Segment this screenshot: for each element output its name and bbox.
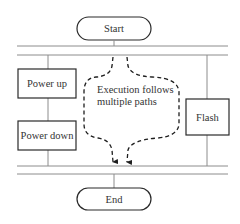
annotation-line-2: multiple paths <box>97 96 157 107</box>
power-up-label: Power up <box>27 78 67 89</box>
annotation-line-1: Execution follows <box>97 84 174 95</box>
start-node: Start <box>77 17 151 40</box>
power-down-label: Power down <box>21 130 75 141</box>
power-down-node: Power down <box>18 121 76 150</box>
dashed-path-left <box>84 57 113 162</box>
end-node: End <box>77 188 151 210</box>
dashed-path-right <box>127 57 179 162</box>
flowchart-diagram: Start Power up Power down Flash Executio… <box>0 0 240 224</box>
start-label: Start <box>104 23 124 34</box>
power-up-node: Power up <box>18 69 76 98</box>
end-label: End <box>106 194 124 205</box>
flash-node: Flash <box>186 99 229 135</box>
flash-label: Flash <box>196 112 220 123</box>
